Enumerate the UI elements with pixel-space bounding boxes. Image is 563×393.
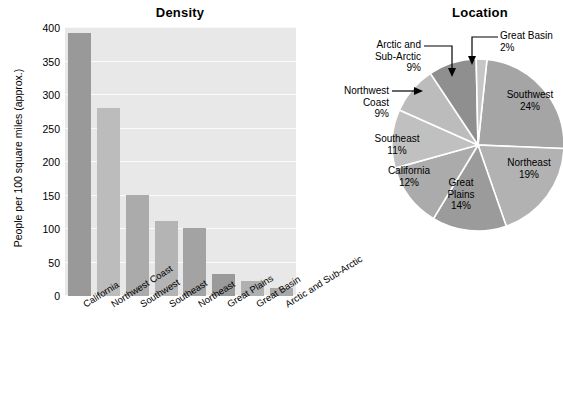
- slice-label-california: California 12%: [374, 165, 444, 188]
- slice-label-southeast-value: 11%: [361, 145, 433, 157]
- bar-california[interactable]: [68, 33, 91, 296]
- gridline: [65, 61, 296, 62]
- callout-arctic-line2: Sub-Arctic: [326, 51, 421, 63]
- y-tick-label: 300: [18, 90, 60, 101]
- slice-label-southwest-name: Southwest: [485, 89, 563, 101]
- callout-arctic-and-sub-arctic: Arctic and Sub-Arctic 9%: [326, 39, 421, 74]
- y-tick-label: 400: [18, 23, 60, 34]
- callout-great-basin-line2: 2%: [500, 42, 563, 54]
- gridline: [65, 94, 296, 95]
- slice-label-southwest: Southwest 24%: [485, 89, 563, 112]
- bar-northwest-coast[interactable]: [97, 108, 120, 296]
- slice-label-northeast-value: 19%: [489, 169, 563, 181]
- gridline: [65, 27, 296, 28]
- y-tick-label: 200: [18, 157, 60, 168]
- callout-great-basin-line1: Great Basin: [500, 30, 563, 42]
- callout-northwest-coast-line2: Coast: [314, 97, 389, 109]
- bar-plot-area: [65, 28, 296, 296]
- y-tick-label: 150: [18, 191, 60, 202]
- y-tick-label: 50: [18, 258, 60, 269]
- leader-great-basin: [472, 37, 498, 58]
- slice-label-northeast-name: Northeast: [489, 157, 563, 169]
- slice-label-northeast: Northeast 19%: [489, 157, 563, 180]
- callout-great-basin: Great Basin 2%: [500, 30, 563, 53]
- slice-label-great-plains-line2: Plains: [434, 189, 488, 201]
- slice-label-southeast: Southeast 11%: [361, 133, 433, 156]
- callout-arctic-line3: 9%: [326, 62, 421, 74]
- y-tick-label: 0: [18, 291, 60, 302]
- location-pie-chart: Location Southwest 24%Northeast 19%Great…: [300, 0, 563, 393]
- density-chart-title: Density: [60, 5, 300, 20]
- callout-northwest-coast: Northwest Coast 9%: [314, 85, 389, 120]
- callout-northwest-coast-line1: Northwest: [314, 85, 389, 97]
- y-tick-label: 250: [18, 124, 60, 135]
- callout-northwest-coast-line3: 9%: [314, 108, 389, 120]
- slice-label-california-name: California: [374, 165, 444, 177]
- y-tick-label: 100: [18, 224, 60, 235]
- slice-label-southwest-value: 24%: [485, 101, 563, 113]
- figure-root: Density People per 100 square miles (app…: [0, 0, 563, 393]
- y-tick-label: 350: [18, 57, 60, 68]
- density-bar-chart: Density People per 100 square miles (app…: [0, 0, 300, 393]
- slice-label-southeast-name: Southeast: [361, 133, 433, 145]
- slice-label-great-plains-value: 14%: [434, 200, 488, 212]
- slice-label-california-value: 12%: [374, 177, 444, 189]
- callout-arctic-line1: Arctic and: [326, 39, 421, 51]
